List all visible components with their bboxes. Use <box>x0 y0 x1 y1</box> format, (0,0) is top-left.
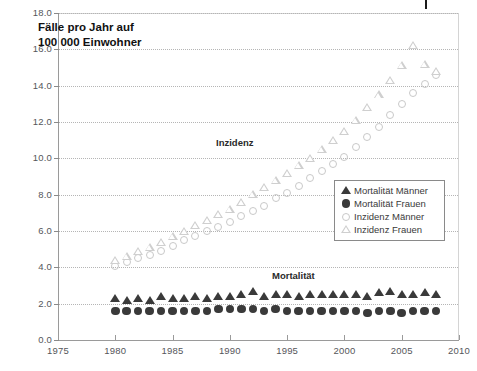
data-point <box>340 307 349 316</box>
y-axis-tick-mark <box>54 304 59 305</box>
data-point <box>122 296 132 304</box>
y-axis-tick-label: 0.0 <box>0 334 52 345</box>
data-point <box>362 103 372 111</box>
legend-item: Mortalität Männer <box>339 184 440 197</box>
data-point <box>122 307 131 316</box>
data-point <box>225 205 235 213</box>
x-axis-tick-mark <box>115 335 116 340</box>
data-point <box>156 292 166 300</box>
x-axis-tick-mark <box>344 335 345 340</box>
data-point <box>420 307 429 316</box>
data-point <box>340 153 348 161</box>
x-axis-tick-label: 2000 <box>322 345 366 356</box>
legend-item: Inzidenz Frauen <box>339 223 440 236</box>
data-point <box>397 290 407 298</box>
data-point <box>317 145 327 153</box>
x-axis-tick-mark <box>402 335 403 340</box>
x-axis-tick-mark <box>58 335 59 340</box>
data-point <box>328 290 338 298</box>
data-point <box>168 307 177 316</box>
data-point <box>146 251 154 259</box>
data-point <box>226 218 234 226</box>
data-point <box>363 309 372 318</box>
y-axis-tick-mark <box>54 158 59 159</box>
data-point <box>248 190 258 198</box>
data-point <box>259 183 269 191</box>
data-point <box>214 305 223 314</box>
data-point <box>362 292 372 300</box>
x-axis-tick-label: 1975 <box>36 345 80 356</box>
data-point <box>294 307 303 316</box>
x-axis-tick-label: 1985 <box>151 345 195 356</box>
data-point <box>133 294 143 302</box>
y-axis-tick-label: 14.0 <box>0 80 52 91</box>
gridline <box>59 304 458 305</box>
y-axis-tick-label: 10.0 <box>0 152 52 163</box>
data-point <box>318 167 326 175</box>
data-point <box>431 290 441 298</box>
data-point <box>421 80 429 88</box>
gridline <box>59 122 458 123</box>
legend-item-label: Inzidenz Männer <box>353 211 424 222</box>
gridline <box>59 86 458 87</box>
legend-marker-circle-filled-icon <box>339 197 353 210</box>
annotation-mortalitaet: Mortalität <box>272 270 315 281</box>
y-axis-tick-label: 2.0 <box>0 298 52 309</box>
data-point <box>420 60 430 68</box>
x-axis-tick-label: 1995 <box>265 345 309 356</box>
data-point <box>110 294 120 302</box>
x-axis-tick-label: 1990 <box>208 345 252 356</box>
data-point <box>385 76 395 84</box>
legend-item-label: Mortalität Frauen <box>353 198 426 209</box>
data-point <box>317 307 326 316</box>
data-point <box>282 290 292 298</box>
x-axis-tick-label: 2005 <box>380 345 424 356</box>
data-point <box>111 307 120 316</box>
data-point <box>386 307 395 316</box>
data-point <box>145 243 155 251</box>
data-point <box>397 309 406 318</box>
data-point <box>237 305 246 314</box>
data-point <box>236 290 246 298</box>
y-axis-tick-label: 18.0 <box>0 7 52 18</box>
data-point <box>363 133 371 141</box>
chart-figure: 0.02.04.06.08.010.012.014.016.018.0 1975… <box>0 0 477 371</box>
data-point <box>156 238 166 246</box>
data-point <box>145 296 155 304</box>
x-axis-line <box>58 340 459 341</box>
gridline <box>59 13 458 14</box>
legend-item-label: Mortalität Männer <box>353 185 428 196</box>
data-point <box>271 290 281 298</box>
data-point <box>260 202 268 210</box>
data-point <box>385 287 395 295</box>
data-point <box>305 154 315 162</box>
data-point <box>420 288 430 296</box>
x-axis-tick-mark <box>230 335 231 340</box>
data-point <box>272 194 280 202</box>
data-point <box>408 41 418 49</box>
data-point <box>339 290 349 298</box>
y-axis-tick-mark <box>54 13 59 14</box>
data-point <box>374 288 384 296</box>
data-point <box>339 127 349 135</box>
page-edge-tick-mark <box>425 0 427 9</box>
x-axis-tick-label: 1980 <box>93 345 137 356</box>
data-point <box>431 67 441 75</box>
data-point <box>179 227 189 235</box>
y-axis-tick-label: 4.0 <box>0 261 52 272</box>
legend-item: Mortalität Frauen <box>339 197 440 210</box>
data-point <box>190 292 200 300</box>
data-point <box>122 252 132 260</box>
y-axis-tick-mark <box>54 267 59 268</box>
chart-legend: Mortalität MännerMortalität FrauenInzide… <box>334 180 445 241</box>
data-point <box>259 292 269 300</box>
y-axis-line <box>58 13 59 341</box>
data-point <box>202 216 212 224</box>
x-axis-tick-mark <box>287 335 288 340</box>
data-point <box>351 290 361 298</box>
x-axis-tick-mark <box>173 335 174 340</box>
legend-item: Inzidenz Männer <box>339 210 440 223</box>
x-axis-tick-label: 2010 <box>437 345 477 356</box>
data-point <box>328 136 338 144</box>
data-point <box>179 294 189 302</box>
